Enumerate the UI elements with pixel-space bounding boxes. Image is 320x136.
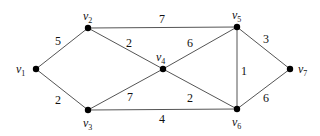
edge-weight-v1-v3: 2: [55, 93, 61, 107]
node-label-v1: v1: [16, 62, 25, 78]
edge-weight-v1-v2: 5: [55, 34, 61, 48]
edge-v4-v6: [163, 69, 237, 109]
node-label-v4: v4: [156, 50, 165, 66]
edge-weight-v2-v5: 7: [159, 12, 165, 26]
edge-v3-v4: [88, 69, 163, 110]
edge-v1-v2: [36, 28, 88, 69]
edge-weight-v3-v4: 7: [127, 90, 133, 104]
edge-weight-v3-v6: 4: [159, 112, 165, 126]
node-v1: [33, 66, 39, 72]
nodes: [33, 24, 293, 113]
edge-weight-v4-v5: 6: [187, 36, 193, 50]
edge-weight-v2-v4: 2: [126, 36, 132, 50]
node-label-v6: v6: [232, 115, 241, 131]
weighted-graph: 52727462136 v1v2v3v4v5v6v7: [0, 0, 320, 136]
node-label-v3: v3: [83, 116, 92, 132]
node-v7: [287, 66, 293, 72]
node-label-v2: v2: [83, 9, 92, 25]
edge-weight-v4-v6: 2: [187, 91, 193, 105]
node-label-v5: v5: [232, 8, 241, 24]
node-v4: [160, 66, 166, 72]
edge-weight-v6-v7: 6: [263, 91, 269, 105]
edge-v1-v3: [36, 69, 88, 110]
node-v5: [234, 24, 240, 30]
node-v2: [85, 25, 91, 31]
edge-v2-v5: [88, 27, 237, 28]
edge-weight-v5-v6: 1: [241, 64, 247, 78]
edge-v3-v6: [88, 109, 237, 110]
node-v3: [85, 107, 91, 113]
node-label-v7: v7: [298, 62, 307, 78]
node-v6: [234, 106, 240, 112]
edge-weight-v5-v7: 3: [263, 32, 269, 46]
edge-v4-v5: [163, 27, 237, 69]
